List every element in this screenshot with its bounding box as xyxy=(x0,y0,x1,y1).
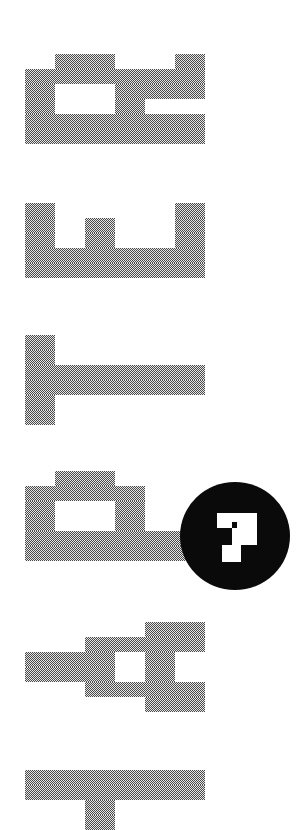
pixel-block xyxy=(85,471,115,486)
pixel-block xyxy=(25,263,55,278)
pixel-block xyxy=(55,486,85,501)
pixel-block xyxy=(115,637,145,652)
pixel-block xyxy=(115,682,145,697)
pixel-block xyxy=(85,380,115,395)
pixel-block xyxy=(115,69,145,84)
pixel-block xyxy=(115,114,145,129)
pixel-block xyxy=(85,218,115,233)
pixel-block xyxy=(25,770,55,785)
pixel-block xyxy=(85,785,115,800)
pixel-block xyxy=(145,637,175,652)
pixel-block xyxy=(115,99,145,114)
pixel-block xyxy=(25,785,55,800)
pixel-block xyxy=(85,69,115,84)
pixel-block xyxy=(25,69,55,84)
pixel-block xyxy=(175,785,205,800)
pixel-block xyxy=(175,365,205,380)
pixel-block xyxy=(85,531,115,546)
pixel-block xyxy=(55,129,85,144)
pixel-block xyxy=(25,667,55,682)
pixel-block xyxy=(175,129,205,144)
pixel-block xyxy=(25,486,55,501)
pixel-block xyxy=(25,248,55,263)
pixel-block xyxy=(145,697,175,712)
pixel-block xyxy=(145,69,175,84)
pixel-block xyxy=(175,622,205,637)
pixel-block xyxy=(25,114,55,129)
pixel-block xyxy=(175,697,205,712)
pixel-block xyxy=(175,218,205,233)
pixel-block xyxy=(115,365,145,380)
pixel-block xyxy=(85,54,115,69)
pixel-block xyxy=(25,410,55,425)
pixel-block xyxy=(85,652,115,667)
pixel-block xyxy=(25,365,55,380)
pixel-block xyxy=(55,770,85,785)
pixel-block xyxy=(55,471,85,486)
chapter-number-badge: 7 xyxy=(180,482,290,590)
pixel-block xyxy=(55,263,85,278)
pixel-block xyxy=(175,84,205,99)
pixel-block xyxy=(25,129,55,144)
pixel-block xyxy=(115,516,145,531)
pixel-block xyxy=(115,263,145,278)
numeral-seven-icon xyxy=(180,482,290,590)
pixel-block xyxy=(175,263,205,278)
pixel-block xyxy=(145,129,175,144)
pixel-block xyxy=(145,365,175,380)
pixel-block xyxy=(55,380,85,395)
pixel-block xyxy=(115,248,145,263)
pixel-block xyxy=(145,263,175,278)
chapter-title-art: CHAPTER 7 xyxy=(0,0,301,830)
pixel-block xyxy=(55,652,85,667)
pixel-block xyxy=(85,233,115,248)
pixel-block xyxy=(85,815,115,830)
pixel-block xyxy=(85,365,115,380)
pixel-block xyxy=(85,248,115,263)
pixel-block xyxy=(175,248,205,263)
pixel-block xyxy=(55,785,85,800)
chapter-title-text: CHAPTER xyxy=(0,0,1,1)
pixel-block xyxy=(25,516,55,531)
pixel-block xyxy=(115,770,145,785)
pixel-block xyxy=(25,350,55,365)
pixel-block xyxy=(145,770,175,785)
pixel-block xyxy=(85,682,115,697)
pixel-block xyxy=(85,546,115,561)
pixel-block xyxy=(25,395,55,410)
pixel-block xyxy=(25,546,55,561)
pixel-block xyxy=(145,84,175,99)
pixel-block xyxy=(85,800,115,815)
pixel-block xyxy=(25,501,55,516)
pixel-block xyxy=(55,546,85,561)
pixel-block xyxy=(175,682,205,697)
pixel-block xyxy=(115,84,145,99)
pixel-block xyxy=(115,129,145,144)
pixel-block xyxy=(85,637,115,652)
pixel-block xyxy=(175,770,205,785)
pixel-block xyxy=(145,785,175,800)
pixel-block xyxy=(25,335,55,350)
pixel-block xyxy=(175,114,205,129)
pixel-block xyxy=(25,99,55,114)
pixel-block xyxy=(85,486,115,501)
pixel-block xyxy=(175,54,205,69)
pixel-block xyxy=(85,263,115,278)
pixel-block xyxy=(145,622,175,637)
pixel-block xyxy=(115,531,145,546)
pixel-block xyxy=(145,531,175,546)
pixel-block xyxy=(55,365,85,380)
pixel-block xyxy=(25,652,55,667)
pixel-block xyxy=(55,531,85,546)
pixel-block xyxy=(145,667,175,682)
pixel-block xyxy=(145,546,175,561)
pixel-block xyxy=(145,652,175,667)
pixel-block xyxy=(25,84,55,99)
pixel-block xyxy=(25,203,55,218)
pixel-block xyxy=(115,501,145,516)
pixel-block xyxy=(115,380,145,395)
pixel-block xyxy=(175,380,205,395)
pixel-block xyxy=(25,380,55,395)
pixel-block xyxy=(55,69,85,84)
pixel-block xyxy=(25,233,55,248)
